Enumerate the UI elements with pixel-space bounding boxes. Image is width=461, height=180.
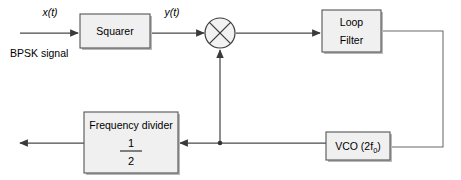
frequency-divider-denominator: 2 [128, 155, 134, 167]
vco-label-main: VCO (2f [335, 140, 373, 152]
frequency-divider-title: Frequency divider [89, 119, 173, 131]
wire-loop-filter-to-vco [381, 31, 443, 147]
loop-filter-label-line1: Loop [340, 16, 364, 28]
squarer-label: Squarer [96, 25, 134, 37]
loop-filter-label-line2: Filter [340, 34, 364, 46]
junction-dot [218, 141, 223, 146]
bpsk-signal-caption: BPSK signal [10, 47, 68, 59]
block-diagram-canvas: Squarer Loop Filter VCO (2f0) Frequency … [0, 0, 461, 180]
block-diagram: Squarer Loop Filter VCO (2f0) Frequency … [0, 0, 461, 180]
intermediate-signal-label: y(t) [163, 6, 179, 18]
input-signal-label: x(t) [41, 6, 57, 18]
vco-label-end: ) [377, 140, 381, 152]
frequency-divider-numerator: 1 [128, 137, 134, 149]
